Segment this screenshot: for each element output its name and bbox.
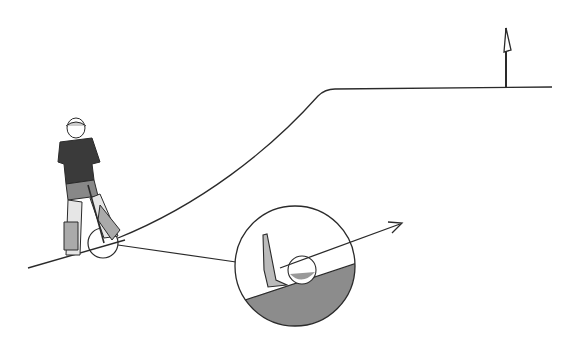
- golf-illustration: [0, 0, 573, 340]
- flag-icon: [504, 28, 511, 88]
- hill-curve: [118, 87, 552, 238]
- magnified-inset: [230, 200, 360, 340]
- connector-line: [118, 245, 236, 262]
- golfer-figure: [58, 118, 120, 255]
- illustration-canvas: [0, 0, 573, 340]
